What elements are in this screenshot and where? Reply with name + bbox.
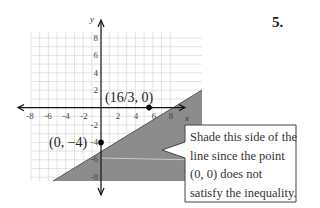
svg-text:-2: -2	[91, 120, 99, 130]
svg-text:6: 6	[94, 50, 99, 60]
callout-line-2: line since the point	[190, 147, 296, 166]
svg-text:-4: -4	[91, 137, 99, 147]
point-y-intercept	[98, 140, 104, 146]
callout-line-4: satisfy the inequality.	[190, 184, 296, 203]
callout-line-1: Shade this side of the	[190, 128, 296, 147]
svg-text:4: 4	[94, 68, 99, 78]
svg-text:-8: -8	[91, 172, 99, 182]
y-axis-label: y	[89, 14, 94, 24]
svg-text:-8: -8	[26, 111, 34, 121]
svg-text:8: 8	[169, 111, 174, 121]
svg-text:6: 6	[152, 111, 157, 121]
svg-text:2: 2	[94, 85, 99, 95]
callout-line-3: (0, 0) does not	[190, 165, 296, 184]
label-x-intercept: (16/3, 0)	[105, 90, 154, 106]
callout-text: Shade this side of the line since the po…	[190, 128, 296, 202]
svg-text:8: 8	[94, 33, 99, 43]
svg-text:-6: -6	[91, 154, 99, 164]
label-y-intercept: (0, −4)	[49, 135, 88, 151]
svg-text:-6: -6	[44, 111, 52, 121]
svg-text:-4: -4	[62, 111, 70, 121]
x-axis-label: x	[184, 113, 189, 123]
svg-text:-2: -2	[80, 111, 88, 121]
problem-number: 5.	[272, 14, 283, 31]
point-x-intercept	[146, 105, 152, 111]
svg-text:4: 4	[134, 111, 139, 121]
svg-text:2: 2	[116, 111, 121, 121]
